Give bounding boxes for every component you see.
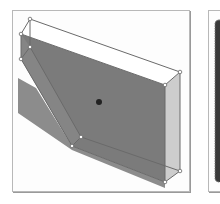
- right-textured-object: [215, 20, 220, 182]
- slab-side-face: [165, 72, 180, 182]
- center-point-handle[interactable]: [96, 99, 102, 105]
- figure-canvas: [0, 0, 220, 204]
